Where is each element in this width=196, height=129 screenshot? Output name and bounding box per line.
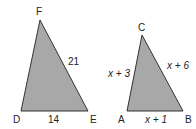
- side-label-cb: x + 6: [167, 61, 189, 71]
- side-label-de: 14: [48, 115, 59, 125]
- vertex-label-a: A: [118, 115, 125, 125]
- vertex-label-f: F: [36, 7, 42, 17]
- side-label-ac: x + 3: [108, 69, 130, 79]
- vertex-label-b: B: [185, 115, 192, 125]
- side-label-ab: x + 1: [145, 115, 167, 125]
- similar-triangles-diagram: F D E 21 14 C A B x + 3 x + 6 x + 1: [0, 0, 196, 129]
- side-label-fe: 21: [68, 57, 79, 67]
- vertex-label-c: C: [138, 23, 145, 33]
- vertex-label-d: D: [13, 115, 20, 125]
- triangle-abc: [127, 35, 183, 111]
- vertex-label-e: E: [90, 115, 97, 125]
